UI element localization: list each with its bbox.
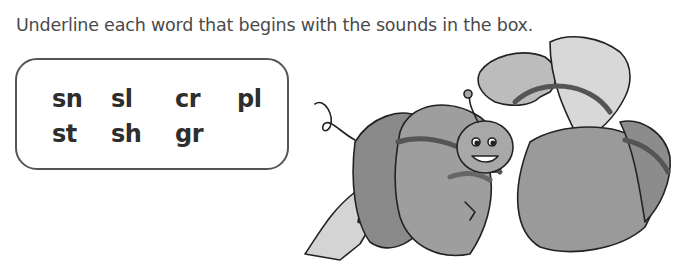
sound-sl: sl xyxy=(111,85,133,113)
sound-gr: gr xyxy=(175,120,203,148)
sound-pl: pl xyxy=(237,85,261,113)
sound-box: sn sl cr pl st sh gr xyxy=(15,58,289,170)
sound-st: st xyxy=(52,120,77,148)
sound-sn: sn xyxy=(52,85,82,113)
sound-cr: cr xyxy=(175,85,200,113)
sound-sh: sh xyxy=(111,120,141,148)
caterpillar-leaves-illustration xyxy=(300,22,690,262)
